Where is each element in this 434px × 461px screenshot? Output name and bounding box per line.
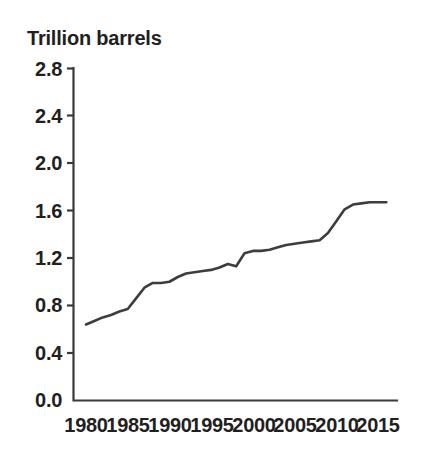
axis-spine-path <box>74 68 398 401</box>
y-tick-label-2_0: 2.0 <box>35 152 62 174</box>
x-tick-label-2000: 2000 <box>232 414 275 436</box>
y-tick-label-2_4: 2.4 <box>35 105 63 127</box>
y-tick-label-0_0: 0.0 <box>35 389 62 411</box>
y-tick-label-0_8: 0.8 <box>35 294 62 316</box>
y-tick-label-group: 2.8 2.4 2.0 1.6 1.2 0.8 0.4 0.0 <box>35 58 63 411</box>
x-tick-label-1985: 1985 <box>106 414 149 436</box>
data-line-proved-oil-reserves <box>86 202 386 324</box>
x-tick-label-group: 1980 1985 1990 1995 2000 2005 2010 2015 <box>64 414 399 436</box>
plot-area: 2.8 2.4 2.0 1.6 1.2 0.8 0.4 0.0 1980 198… <box>0 0 434 461</box>
y-tick-label-0_4: 0.4 <box>35 342 63 364</box>
x-tick-label-2015: 2015 <box>356 414 399 436</box>
x-tick-label-1995: 1995 <box>190 414 233 436</box>
chart-figure: Trillion barrels 2.8 2.4 2.0 1.6 1.2 0.8… <box>0 0 434 461</box>
x-tick-label-1980: 1980 <box>64 414 107 436</box>
y-tick-label-1_6: 1.6 <box>35 200 62 222</box>
axis-spines <box>67 68 397 401</box>
x-tick-label-2010: 2010 <box>315 414 358 436</box>
y-tick-label-1_2: 1.2 <box>35 247 62 269</box>
y-tick-label-2_8: 2.8 <box>35 58 62 80</box>
x-tick-label-2005: 2005 <box>273 414 316 436</box>
data-series-group <box>86 202 386 324</box>
x-tick-label-1990: 1990 <box>148 414 191 436</box>
